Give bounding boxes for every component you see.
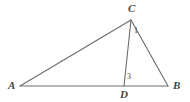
vertex-label-a: A: [8, 80, 15, 91]
geometry-figure: A B C D 1 3: [0, 0, 190, 102]
vertex-label-b: B: [173, 80, 180, 91]
vertex-label-d: D: [120, 89, 128, 100]
segment-AC: [20, 20, 131, 86]
angle-label-3: 3: [127, 73, 131, 81]
angle-label-1: 1: [134, 27, 138, 35]
triangle-diagram-svg: [0, 0, 190, 102]
vertex-label-c: C: [128, 3, 135, 14]
